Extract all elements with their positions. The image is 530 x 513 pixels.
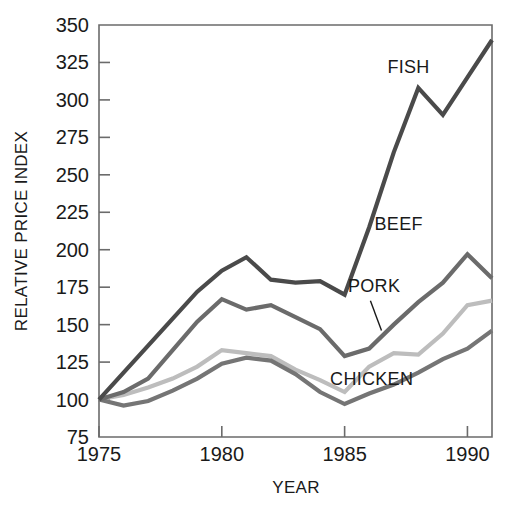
- data-series-group: [99, 40, 492, 406]
- series-label-beef: BEEF: [375, 214, 423, 234]
- x-axis-tick-labels: 1975198019851990: [77, 443, 490, 465]
- series-label-pork: PORK: [348, 276, 400, 296]
- y-tick-label: 200: [56, 239, 89, 261]
- relative-price-index-line-chart: 75100125150175200225250275300325350 1975…: [0, 0, 530, 513]
- series-label-chicken: CHICKEN: [330, 369, 413, 389]
- y-tick-label: 175: [56, 276, 89, 298]
- y-tick-label: 250: [56, 164, 89, 186]
- x-tick-label: 1990: [445, 443, 490, 465]
- y-tick-label: 100: [56, 389, 89, 411]
- x-axis-ticks: [99, 426, 467, 437]
- pork-leader-line: [370, 301, 381, 331]
- x-tick-label: 1975: [77, 443, 122, 465]
- y-tick-label: 350: [56, 14, 89, 36]
- series-line-fish: [99, 40, 492, 400]
- y-tick-label: 300: [56, 89, 89, 111]
- x-tick-label: 1985: [322, 443, 367, 465]
- series-label-fish: FISH: [387, 57, 429, 77]
- y-tick-label: 225: [56, 201, 89, 223]
- y-tick-label: 325: [56, 51, 89, 73]
- y-axis-tick-labels: 75100125150175200225250275300325350: [56, 14, 89, 448]
- y-axis-title: RELATIVE PRICE INDEX: [12, 131, 31, 331]
- chart-container: 75100125150175200225250275300325350 1975…: [0, 0, 530, 513]
- y-tick-label: 275: [56, 126, 89, 148]
- y-tick-label: 150: [56, 314, 89, 336]
- series-line-beef: [99, 254, 492, 399]
- y-tick-label: 125: [56, 351, 89, 373]
- x-tick-label: 1980: [200, 443, 245, 465]
- x-axis-title: YEAR: [272, 478, 320, 497]
- y-axis-ticks: [99, 62, 110, 399]
